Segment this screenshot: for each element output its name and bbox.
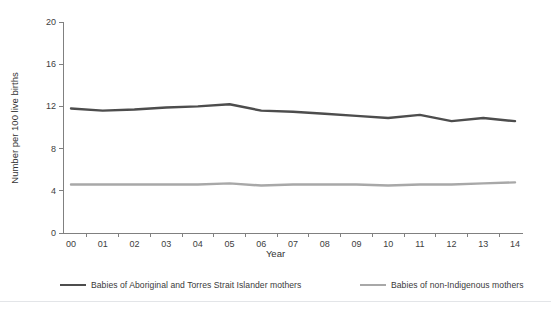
series-line (71, 182, 515, 185)
axis-ticks (59, 22, 499, 237)
axis-lines (63, 22, 523, 233)
series-line (71, 104, 515, 121)
plot-area: 048121620 000102030405060708091011121314 (0, 0, 551, 270)
legend-swatch-icon (60, 284, 86, 286)
line-chart-figure: 048121620 000102030405060708091011121314… (0, 0, 551, 310)
bottom-divider (0, 301, 551, 302)
y-tick-label: 16 (34, 60, 56, 69)
y-axis-title: Number per 100 live births (9, 72, 20, 183)
y-tick-label: 0 (34, 229, 56, 238)
y-tick-label: 4 (34, 186, 56, 195)
y-tick-label: 8 (34, 144, 56, 153)
legend-item-label: Babies of non-Indigenous mothers (391, 280, 524, 290)
legend-swatch-icon (360, 284, 386, 286)
data-series-group (71, 104, 515, 185)
y-tick-label: 20 (34, 18, 56, 27)
legend-item-aboriginal-torres-strait: Babies of Aboriginal and Torres Strait I… (60, 277, 301, 293)
y-tick-label: 12 (34, 102, 56, 111)
legend-item-label: Babies of Aboriginal and Torres Strait I… (91, 280, 301, 290)
plot-canvas (0, 0, 551, 270)
chart-legend: Babies of Aboriginal and Torres Strait I… (0, 277, 551, 293)
x-axis-title: Year (0, 248, 551, 259)
legend-item-non-indigenous: Babies of non-Indigenous mothers (360, 277, 524, 293)
